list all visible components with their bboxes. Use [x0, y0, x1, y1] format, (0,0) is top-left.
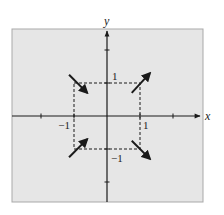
y-axis-label: y: [103, 14, 110, 28]
tick-label-y-pos1: 1: [112, 70, 118, 82]
tick-label-x-neg1: −1: [58, 119, 70, 131]
x-axis-label: x: [204, 109, 211, 123]
vector-field-diagram: x y −111−1: [0, 0, 224, 215]
tick-label-x-pos1: 1: [143, 119, 149, 131]
tick-label-y-neg1: −1: [111, 152, 123, 164]
